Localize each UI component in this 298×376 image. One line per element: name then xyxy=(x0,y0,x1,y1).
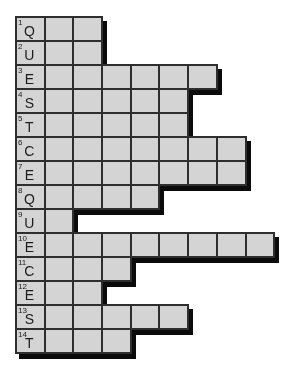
grid-cell[interactable] xyxy=(131,233,160,257)
grid-cell[interactable] xyxy=(73,161,102,185)
grid-row: 5T xyxy=(16,113,274,137)
clue-letter: E xyxy=(17,72,42,87)
grid-row: 12E xyxy=(16,281,274,305)
grid-cell[interactable] xyxy=(45,329,74,353)
grid-cell[interactable] xyxy=(45,89,74,113)
grid-cell[interactable] xyxy=(45,41,74,65)
grid-cell[interactable] xyxy=(45,137,74,161)
grid-cell[interactable] xyxy=(45,17,74,41)
grid-cell[interactable] xyxy=(102,233,131,257)
clue-cell[interactable]: 3E xyxy=(16,65,45,89)
grid-cell[interactable] xyxy=(45,185,74,209)
grid-cell[interactable] xyxy=(188,161,217,185)
clue-cell[interactable]: 1Q xyxy=(16,17,45,41)
grid-cell[interactable] xyxy=(159,233,188,257)
clue-cell[interactable]: 4S xyxy=(16,89,45,113)
clue-cell[interactable]: 13S xyxy=(16,305,45,329)
grid-row: 9U xyxy=(16,209,274,233)
clue-letter: E xyxy=(17,288,42,303)
clue-cell[interactable]: 10E xyxy=(16,233,45,257)
clue-letter: E xyxy=(17,168,42,183)
grid-cell[interactable] xyxy=(102,257,131,281)
clue-cell[interactable]: 2U xyxy=(16,41,45,65)
clue-letter: T xyxy=(17,120,42,135)
grid-cell[interactable] xyxy=(102,329,131,353)
grid-cell[interactable] xyxy=(73,113,102,137)
clue-cell[interactable]: 14T xyxy=(16,329,45,353)
clue-letter: Q xyxy=(17,24,42,39)
grid-cell[interactable] xyxy=(45,281,74,305)
clue-letter: C xyxy=(17,264,42,279)
grid-cell[interactable] xyxy=(217,233,246,257)
grid-cell[interactable] xyxy=(159,89,188,113)
grid-cell[interactable] xyxy=(73,185,102,209)
grid-row: 3E xyxy=(16,65,274,89)
clue-cell[interactable]: 9U xyxy=(16,209,45,233)
grid-cell[interactable] xyxy=(217,137,246,161)
grid-cell[interactable] xyxy=(73,65,102,89)
grid-row: 7E xyxy=(16,161,274,185)
grid-cell[interactable] xyxy=(45,65,74,89)
grid-cell[interactable] xyxy=(102,161,131,185)
grid-cell[interactable] xyxy=(131,137,160,161)
grid-row: 6C xyxy=(16,137,274,161)
clue-letter: S xyxy=(17,96,42,111)
grid-cell[interactable] xyxy=(102,305,131,329)
grid-row: 13S xyxy=(16,305,274,329)
grid-row: 2U xyxy=(16,41,274,65)
grid-cell[interactable] xyxy=(102,137,131,161)
grid-cell[interactable] xyxy=(73,281,102,305)
grid-cell[interactable] xyxy=(102,185,131,209)
grid-cell[interactable] xyxy=(73,329,102,353)
clue-cell[interactable]: 11C xyxy=(16,257,45,281)
grid-cell[interactable] xyxy=(102,89,131,113)
grid-cell[interactable] xyxy=(102,65,131,89)
clue-letter: U xyxy=(17,48,42,63)
clue-cell[interactable]: 7E xyxy=(16,161,45,185)
grid-cell[interactable] xyxy=(73,137,102,161)
grid-cell[interactable] xyxy=(159,305,188,329)
grid-cell[interactable] xyxy=(102,113,131,137)
grid-cell[interactable] xyxy=(73,17,102,41)
grid-cell[interactable] xyxy=(45,305,74,329)
grid-cell[interactable] xyxy=(188,137,217,161)
grid-cell[interactable] xyxy=(159,161,188,185)
grid-cell[interactable] xyxy=(45,161,74,185)
clue-letter: U xyxy=(17,216,42,231)
grid-cell[interactable] xyxy=(131,113,160,137)
grid-cell[interactable] xyxy=(45,257,74,281)
grid-row: 14T xyxy=(16,329,274,353)
grid-cell[interactable] xyxy=(73,89,102,113)
grid-cell[interactable] xyxy=(131,65,160,89)
crossword-grid: 1Q2U3E4S5T6C7E8Q9U10E11C12E13S14T xyxy=(16,17,274,353)
grid-cell[interactable] xyxy=(217,161,246,185)
clue-cell[interactable]: 8Q xyxy=(16,185,45,209)
grid-cell[interactable] xyxy=(131,305,160,329)
grid-cell[interactable] xyxy=(188,233,217,257)
grid-cell[interactable] xyxy=(131,185,160,209)
grid-cell[interactable] xyxy=(73,257,102,281)
grid-cell[interactable] xyxy=(73,233,102,257)
grid-cell[interactable] xyxy=(131,89,160,113)
grid-cell[interactable] xyxy=(188,65,217,89)
clue-letter: T xyxy=(17,336,42,351)
grid-cell[interactable] xyxy=(45,233,74,257)
clue-letter: Q xyxy=(17,192,42,207)
grid-row: 1Q xyxy=(16,17,274,41)
grid-row: 4S xyxy=(16,89,274,113)
grid-cell[interactable] xyxy=(131,161,160,185)
grid-cell[interactable] xyxy=(45,113,74,137)
grid-cell[interactable] xyxy=(45,209,74,233)
grid-row: 11C xyxy=(16,257,274,281)
grid-cell[interactable] xyxy=(246,233,275,257)
clue-letter: E xyxy=(17,240,42,255)
grid-row: 8Q xyxy=(16,185,274,209)
grid-cell[interactable] xyxy=(159,113,188,137)
clue-cell[interactable]: 5T xyxy=(16,113,45,137)
grid-cell[interactable] xyxy=(73,305,102,329)
grid-cell[interactable] xyxy=(159,65,188,89)
grid-cell[interactable] xyxy=(159,137,188,161)
clue-cell[interactable]: 6C xyxy=(16,137,45,161)
clue-cell[interactable]: 12E xyxy=(16,281,45,305)
grid-cell[interactable] xyxy=(73,41,102,65)
